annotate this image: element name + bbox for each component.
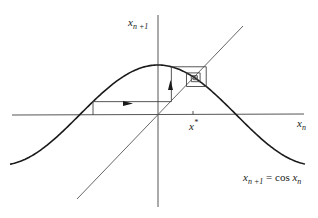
diagonal-line [77, 26, 243, 199]
equation-label: xn +1 = cos xn [242, 171, 301, 186]
arrow-up-icon [168, 80, 173, 90]
fixed-point-label: x* [188, 118, 198, 132]
y-axis-label: xn +1 [127, 16, 148, 31]
x-axis-label: xn [296, 117, 306, 132]
cobweb-diagram: xn +1 xn x* xn +1 = cos xn [0, 0, 318, 218]
